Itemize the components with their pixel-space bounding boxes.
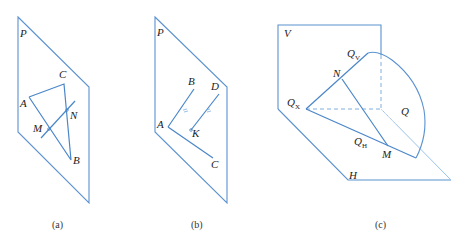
figure-c: V QV N QX Q QH M H (c) [278,25,451,231]
label-qx: QX [287,96,300,111]
plane-q-arc [368,52,425,158]
label-v: V [284,27,292,39]
label-k-b: K [191,127,200,139]
label-qh: QH [354,135,367,150]
plane-p-a [18,17,89,203]
line-mn-c [342,79,388,146]
label-c-a: C [59,68,67,80]
figure-a: P C A M N B (a) [18,17,89,231]
label-m-a: M [32,122,43,134]
label-m-c: M [381,148,392,160]
line-dk [191,94,219,130]
plane-label-p-b: P [156,26,164,38]
label-n-a: N [69,109,78,121]
plane-p-b [155,17,227,203]
geometry-figures: P C A M N B (a) P B D A K C (b) [0,0,461,241]
figure-b: P B D A K C (b) [155,17,227,231]
label-a-b: A [156,118,164,130]
label-a-a: A [19,97,27,109]
trace-qh [306,109,416,158]
label-n-c: N [332,67,341,79]
label-q: Q [401,105,409,117]
caption-a: (a) [52,219,63,231]
line-ac [168,127,213,158]
plane-label-p-a: P [19,27,27,39]
plane-h-right-edge [381,109,451,180]
label-h: H [348,169,358,181]
label-qv: QV [347,47,360,62]
label-b-b: B [188,75,195,87]
line-ab [168,89,194,127]
caption-c: (c) [375,219,386,231]
label-b-a: B [73,154,80,166]
label-c-b: C [211,158,219,170]
caption-b: (b) [191,219,203,231]
label-d-b: D [210,80,219,92]
